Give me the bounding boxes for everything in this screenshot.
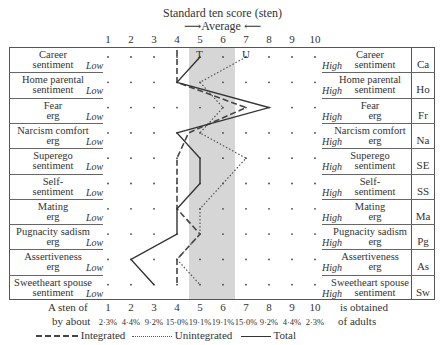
x-tick-bottom: 9 xyxy=(282,301,302,313)
x-tick-bottom: 10 xyxy=(305,301,325,313)
legend-total-swatch xyxy=(241,336,271,337)
x-tick-bottom: 6 xyxy=(213,301,233,313)
marker-T: T xyxy=(196,48,203,60)
footer-line1-prefix: A sten of xyxy=(48,301,88,313)
legend: Integrated Unintegrated Total xyxy=(36,329,296,341)
sten-percentage: 2·3% xyxy=(96,317,120,327)
legend-unintegrated-label: Unintegrated xyxy=(175,329,232,341)
sten-percentage: 15·0% xyxy=(165,317,189,327)
x-tick-bottom: 3 xyxy=(144,301,164,313)
x-tick-bottom: 1 xyxy=(98,301,118,313)
sten-percentage: 19·1% xyxy=(211,317,235,327)
x-tick-bottom: 5 xyxy=(190,301,210,313)
marker-U: U xyxy=(242,48,250,60)
legend-integrated-label: Integrated xyxy=(81,329,126,341)
sten-percentage: 4·4% xyxy=(280,317,304,327)
x-tick-bottom: 8 xyxy=(259,301,279,313)
legend-total-label: Total xyxy=(274,329,296,341)
sten-percentage: 19·1% xyxy=(188,317,212,327)
sten-percentage: 2·3% xyxy=(303,317,327,327)
footer-line2-prefix: by about xyxy=(52,315,90,327)
profile-plot xyxy=(0,0,445,345)
legend-integrated-swatch xyxy=(36,335,78,337)
x-tick-bottom: 4 xyxy=(167,301,187,313)
footer-line1-suffix: is obtained xyxy=(340,301,388,313)
footer-line2-suffix: of adults xyxy=(338,315,376,327)
sten-percentage: 15·0% xyxy=(234,317,258,327)
legend-unintegrated-swatch xyxy=(132,336,172,337)
x-tick-bottom: 7 xyxy=(236,301,256,313)
sten-percentage: 9·2% xyxy=(142,317,166,327)
sten-percentage: 4·4% xyxy=(119,317,143,327)
x-tick-bottom: 2 xyxy=(121,301,141,313)
sten-percentage: 9·2% xyxy=(257,317,281,327)
